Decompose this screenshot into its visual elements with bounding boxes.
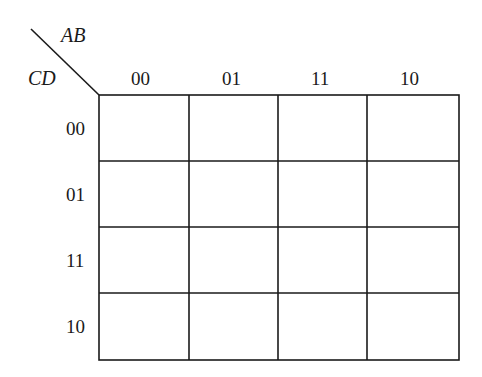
row-label-00: 00 xyxy=(66,119,85,138)
col-label-11: 11 xyxy=(311,69,329,88)
row-label-10: 10 xyxy=(66,317,85,336)
col-label-01: 01 xyxy=(222,69,241,88)
row-label-11: 11 xyxy=(66,251,84,270)
row-label-01: 01 xyxy=(66,185,85,204)
col-label-00: 00 xyxy=(131,69,150,88)
col-label-10: 10 xyxy=(400,69,419,88)
row-variable-label: CD xyxy=(28,68,56,88)
col-variable-label: AB xyxy=(61,25,85,45)
